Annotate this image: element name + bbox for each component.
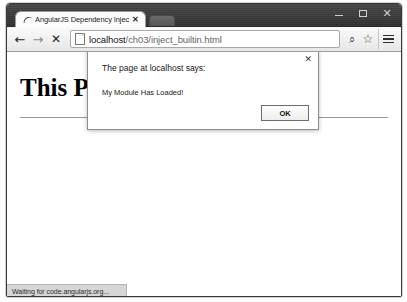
minimize-icon[interactable] [327,6,351,21]
maximize-icon[interactable] [351,6,375,21]
window-title-bar: ✕ AngularJS Dependency Injec ✕ [7,4,401,27]
tab-close-icon[interactable]: ✕ [132,16,139,24]
alert-dialog: ✕ The page at localhost says: My Module … [87,52,319,130]
window-close-icon[interactable]: ✕ [375,6,399,21]
tab-title: AngularJS Dependency Injec [35,15,129,24]
url-path: /ch03/inject_builtin.html [126,34,222,45]
url-host: localhost [89,34,126,45]
address-bar[interactable]: localhost/ch03/inject_builtin.html [70,30,340,48]
browser-toolbar: ← → ✕ localhost/ch03/inject_builtin.html… [7,27,401,52]
status-bar: Waiting for code.angularjs.org... [7,284,127,297]
browser-window: ✕ AngularJS Dependency Injec ✕ ← → ✕ loc… [6,3,402,297]
dialog-title: The page at localhost says: [102,63,205,73]
dialog-message: My Module Has Loaded! [102,88,183,97]
back-icon[interactable]: ← [11,29,29,49]
angularjs-favicon-icon [23,15,32,24]
address-bar-text: localhost/ch03/inject_builtin.html [89,34,222,45]
hamburger-menu-icon[interactable] [378,29,397,49]
bookmark-star-icon[interactable]: ☆ [360,29,376,49]
page-content-area: This Pa ✕ The page at localhost says: My… [7,52,401,297]
stop-icon[interactable]: ✕ [47,29,65,49]
search-icon[interactable]: ⌕ [344,29,360,49]
new-tab-button[interactable] [149,15,175,26]
browser-tab-active[interactable]: AngularJS Dependency Injec ✕ [15,11,146,27]
dialog-close-icon[interactable]: ✕ [304,55,312,64]
forward-icon[interactable]: → [29,29,47,49]
dialog-ok-button[interactable]: OK [261,105,309,121]
page-document-icon [75,33,85,45]
tab-strip: AngularJS Dependency Injec ✕ [15,9,175,27]
status-bar-text: Waiting for code.angularjs.org... [12,288,109,295]
window-controls: ✕ [327,4,399,22]
